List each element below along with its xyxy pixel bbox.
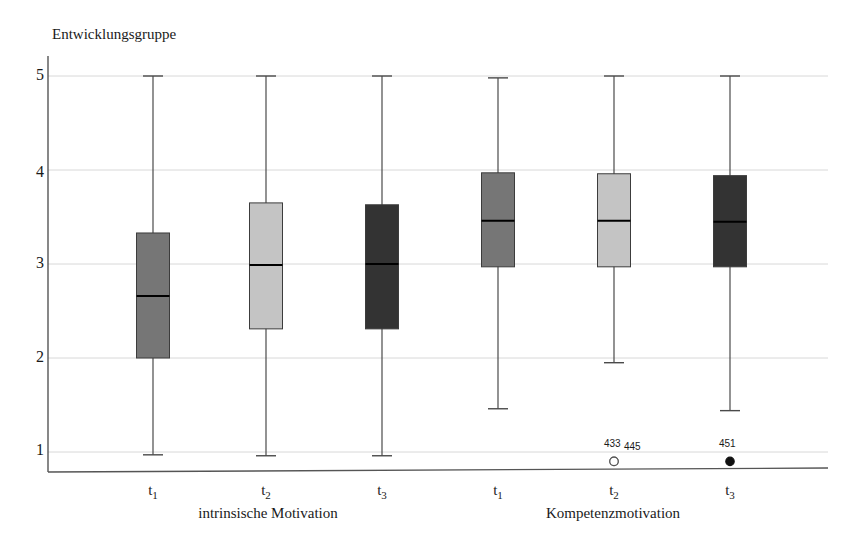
plot-area [0, 0, 852, 547]
ytick-label-4: 4 [20, 163, 44, 181]
xtick-label-g1-t2: t2 [261, 482, 271, 501]
box-plot-item [250, 76, 283, 456]
ytick-label-2: 2 [20, 348, 44, 366]
xtick-label-g1-t1: t1 [148, 482, 158, 501]
box-plot-item [598, 76, 631, 466]
x-axis-line [48, 468, 828, 472]
xtick-label-g1-t3: t3 [377, 482, 387, 501]
outlier-label-433: 433 [604, 438, 621, 449]
xtick-sub: 2 [265, 489, 271, 501]
box-plot-item [137, 76, 170, 455]
ytick-label-3: 3 [20, 254, 44, 272]
outlier-marker [610, 457, 618, 465]
xtick-sub: 3 [381, 489, 387, 501]
outlier-label-451: 451 [719, 438, 736, 449]
ytick-label-1: 1 [20, 441, 44, 459]
ytick-label-5: 5 [20, 66, 44, 84]
xtick-label-g2-t3: t3 [725, 482, 735, 501]
xtick-sub: 2 [613, 489, 619, 501]
outlier-label-445: 445 [624, 441, 641, 452]
xtick-sub: 1 [497, 489, 503, 501]
xtick-sub: 1 [152, 489, 158, 501]
boxplot-chart: Entwicklungsgruppe 5 4 3 2 1 t1 t2 t3 t1… [0, 0, 852, 547]
box-plot-item [482, 78, 515, 409]
xtick-label-g2-t2: t2 [609, 482, 619, 501]
box-series [137, 76, 747, 466]
outlier-marker [726, 457, 734, 465]
xtick-label-g2-t1: t1 [493, 482, 503, 501]
box-rect [366, 205, 399, 329]
group-label-intrinsische-motivation: intrinsische Motivation [198, 505, 338, 522]
xtick-sub: 3 [729, 489, 735, 501]
box-plot-item [366, 76, 399, 456]
group-label-kompetenzmotivation: Kompetenzmotivation [546, 505, 680, 522]
box-plot-item [714, 76, 747, 466]
